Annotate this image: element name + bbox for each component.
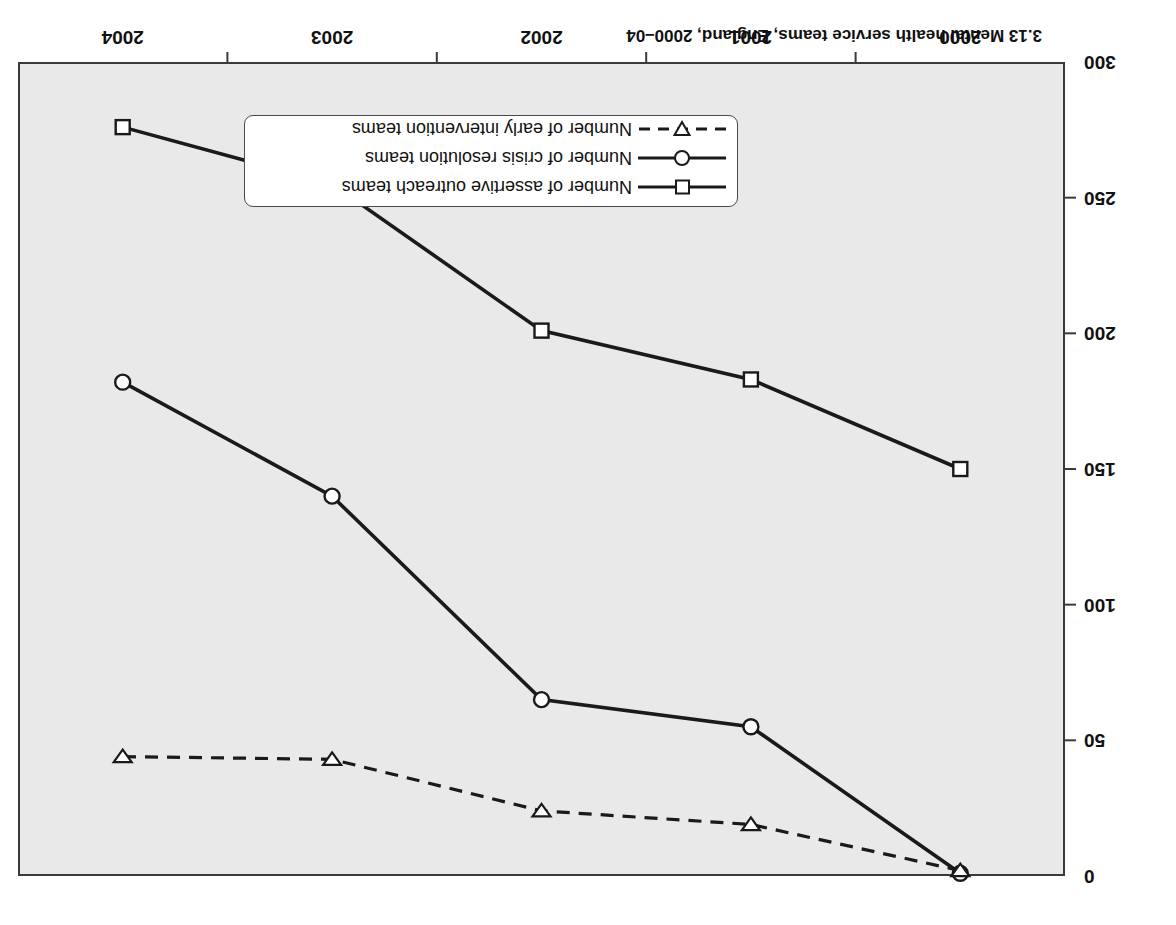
data-point-marker [743,719,758,734]
data-point-marker [115,375,130,390]
data-point-marker [953,462,967,476]
y-tick-label: 300 [1084,51,1160,73]
x-tick-label: 2002 [482,26,602,48]
legend-label: Number of early intervention teams [352,119,632,140]
legend-label: Number of crisis resolution teams [365,148,632,169]
y-tick-label: 100 [1084,594,1160,616]
data-point-marker [534,692,549,707]
chart-title: 3.13 Mental health service teams, Englan… [626,25,1042,45]
x-tick-label: 2003 [272,26,392,48]
legend-item-early-intervention: Number of early intervention teams [245,114,737,144]
data-point-marker [535,324,549,338]
y-tick-label: 150 [1084,458,1160,480]
x-tick-label: 2004 [63,26,183,48]
data-point-marker [325,489,340,504]
legend-marker-circle [636,146,728,170]
data-series-group [114,120,970,881]
legend-marker-triangle [636,117,728,141]
y-tick-label: 250 [1084,187,1160,209]
y-tick-label: 200 [1084,322,1160,344]
y-tick-label: 50 [1084,729,1160,751]
chart-legend: Number of assertive outreach teams Numbe… [244,115,738,207]
legend-item-crisis-resolution: Number of crisis resolution teams [245,143,737,173]
data-point-marker [116,120,130,134]
chart-figure: 05010015020025030020002001200220032004 N… [0,0,1176,925]
legend-label: Number of assertive outreach teams [342,177,632,198]
y-tick-label: 0 [1084,865,1160,887]
series-line [123,382,961,873]
legend-item-assertive-outreach: Number of assertive outreach teams [245,172,737,202]
data-point-marker [744,372,758,386]
legend-marker-square [636,175,728,199]
